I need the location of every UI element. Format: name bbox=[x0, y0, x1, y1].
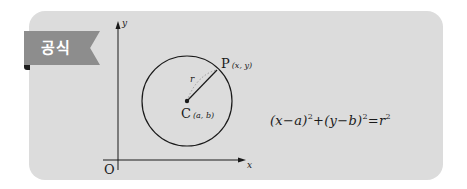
equation-term-1: (x−a) bbox=[270, 113, 308, 128]
equation-plus: + bbox=[313, 113, 324, 128]
origin-label: O bbox=[104, 162, 115, 177]
center-c-coord: (a, b) bbox=[193, 111, 214, 120]
center-c-name: C bbox=[181, 106, 191, 121]
y-axis-arrow-icon bbox=[116, 21, 121, 29]
circle-equation: (x−a)2+(y−b)2=r2 bbox=[270, 113, 391, 128]
equation-equals: = bbox=[368, 113, 379, 128]
point-p-name: P bbox=[221, 56, 230, 71]
equation-exponent-3: 2 bbox=[386, 112, 391, 121]
x-axis-label: x bbox=[247, 160, 252, 170]
point-p-coord: (x, y) bbox=[232, 61, 252, 70]
radius-label: r bbox=[190, 74, 194, 84]
center-c-label: C(a, b) bbox=[181, 106, 214, 121]
y-axis-label: y bbox=[122, 18, 127, 28]
point-p-label: P(x, y) bbox=[221, 56, 252, 71]
equation-term-2: (y−b) bbox=[324, 113, 362, 128]
x-axis-arrow-icon bbox=[238, 158, 246, 163]
circle-diagram bbox=[0, 0, 467, 189]
center-point bbox=[185, 99, 189, 103]
